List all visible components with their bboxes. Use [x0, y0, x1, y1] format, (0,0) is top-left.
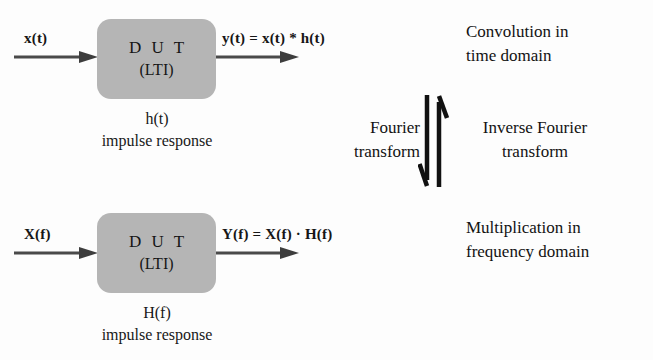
time-dut-title: D U T: [126, 37, 187, 58]
time-output-arrow: [215, 50, 300, 64]
inverse-fourier-transform-label: Inverse Fourier transform: [462, 116, 608, 164]
fourier-transform-label-line1: Fourier: [310, 116, 420, 140]
inverse-fourier-transform-label-line1: Inverse Fourier: [462, 116, 608, 140]
time-domain-dut-block: D U T (LTI): [97, 19, 216, 99]
time-impulse-caption: impulse response: [57, 130, 257, 152]
frequency-impulse-caption: impulse response: [57, 324, 257, 346]
frequency-domain-block-caption: H(f) impulse response: [57, 302, 257, 346]
transform-arrow-pair: [418, 92, 452, 190]
frequency-output-arrow: [215, 246, 300, 260]
time-domain-side-note: Convolution in time domain: [466, 20, 568, 68]
frequency-domain-side-note-line1: Multiplication in: [466, 216, 589, 240]
time-output-signal-label: y(t) = x(t) * h(t): [222, 30, 325, 47]
frequency-domain-side-note: Multiplication in frequency domain: [466, 216, 589, 264]
time-input-arrow: [13, 50, 99, 64]
frequency-input-signal-label: X(f): [24, 226, 51, 243]
time-dut-subtitle: (LTI): [139, 60, 173, 81]
fourier-transform-down-arrow: [420, 95, 428, 186]
diagram-canvas: x(t) D U T (LTI) y(t) = x(t) * h(t) h(t)…: [0, 0, 653, 360]
time-domain-side-note-line2: time domain: [466, 44, 568, 68]
frequency-dut-subtitle: (LTI): [139, 254, 173, 275]
frequency-impulse-symbol: H(f): [57, 302, 257, 324]
time-impulse-symbol: h(t): [57, 108, 257, 130]
frequency-domain-side-note-line2: frequency domain: [466, 240, 589, 264]
fourier-transform-label: Fourier transform: [310, 116, 420, 164]
fourier-transform-label-line2: transform: [310, 140, 420, 164]
frequency-output-signal-label: Y(f) = X(f) · H(f): [222, 226, 332, 243]
inverse-fourier-transform-label-line2: transform: [462, 140, 608, 164]
inverse-fourier-transform-up-arrow: [439, 96, 447, 187]
frequency-domain-dut-block: D U T (LTI): [97, 213, 216, 293]
time-domain-side-note-line1: Convolution in: [466, 20, 568, 44]
time-domain-block-caption: h(t) impulse response: [57, 108, 257, 152]
frequency-input-arrow: [13, 246, 99, 260]
frequency-dut-title: D U T: [126, 231, 187, 252]
time-input-signal-label: x(t): [24, 30, 47, 47]
